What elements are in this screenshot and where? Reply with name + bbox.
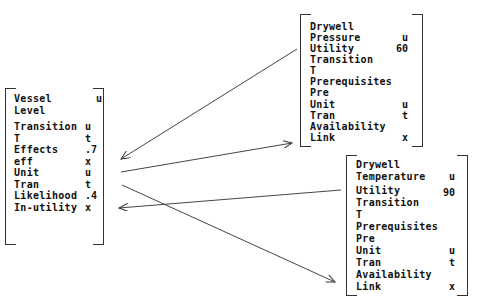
edges-layer [0, 0, 483, 307]
edge-pressure-to-vessel-eff [121, 49, 297, 159]
edge-vessel-unit-to-pressure-link [121, 143, 292, 172]
